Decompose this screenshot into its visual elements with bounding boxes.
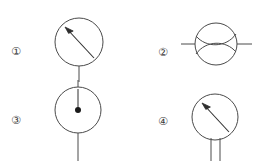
symbol-1-needle-shaft xyxy=(68,30,95,59)
symbol-3-center-dot xyxy=(75,107,81,113)
symbol-2-group: ② xyxy=(158,23,252,65)
symbol-1-needle-arrowhead xyxy=(65,27,73,33)
symbol-1-label: ① xyxy=(11,45,21,58)
symbol-2-circle xyxy=(195,23,237,65)
symbol-4-needle-shaft xyxy=(205,106,230,133)
symbols-canvas: ① ② ③ ④ xyxy=(0,0,272,161)
symbol-1-group: ① xyxy=(11,18,103,82)
symbol-4-needle-arrowhead xyxy=(202,103,210,109)
symbol-3-label: ③ xyxy=(11,114,21,127)
symbol-4-label: ④ xyxy=(158,115,168,128)
symbol-2-label: ② xyxy=(158,46,168,59)
symbol-4-group: ④ xyxy=(158,94,238,161)
symbol-3-group: ③ xyxy=(11,80,101,161)
symbol-sheet: ① ② ③ ④ xyxy=(0,0,272,161)
